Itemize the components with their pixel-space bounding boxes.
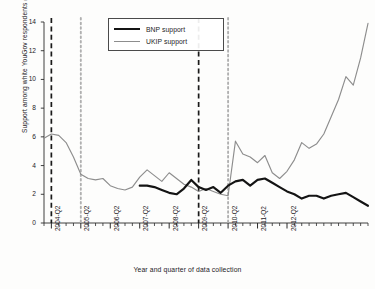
x-tick-label: 2008-Q2 (172, 206, 179, 231)
x-tick-label: 2012-Q2 (290, 206, 297, 231)
legend-swatch-bnp-line (114, 28, 140, 30)
x-tick-label: 2006-Q2 (113, 206, 120, 231)
x-tick-label: 2009-Q2 (201, 206, 208, 231)
y-tick-label: 4 (22, 162, 36, 169)
legend-label-bnp: BNP support (146, 26, 185, 33)
chart-figure: 02468101214 2004-Q22005-Q22006-Q22007-Q2… (0, 0, 375, 289)
y-axis-title: Support among white YouGov respondents (… (21, 0, 28, 162)
y-tick-label: 2 (22, 190, 36, 197)
series-line-bnp (140, 178, 368, 205)
legend-item-ukip: UKIP support (114, 35, 218, 47)
chart-legend: BNP support UKIP support (108, 18, 224, 51)
x-tick-label: 2005-Q2 (83, 206, 90, 231)
x-tick-label: 2010-Q2 (231, 206, 238, 231)
legend-item-bnp: BNP support (114, 23, 218, 35)
legend-label-ukip: UKIP support (146, 38, 187, 45)
x-tick-label: 2004-Q2 (54, 206, 61, 231)
x-axis-title: Year and quarter of data collection (0, 266, 375, 273)
y-tick-label: 0 (22, 219, 36, 226)
x-tick-label: 2007-Q2 (142, 206, 149, 231)
x-tick-label: 2011-Q2 (260, 206, 267, 231)
y-axis-ticks (41, 22, 44, 223)
legend-swatch-ukip-line (114, 41, 140, 42)
